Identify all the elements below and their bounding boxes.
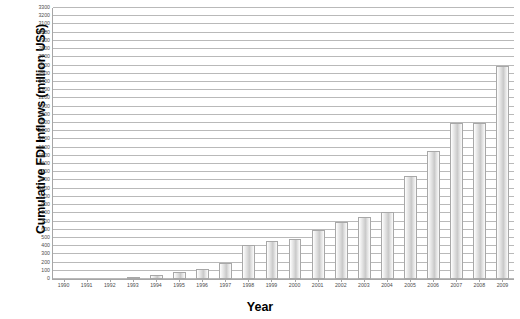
x-axis-tick-label: 2009 xyxy=(497,283,509,288)
y-axis-tick-label: 1400 xyxy=(38,161,50,166)
bar xyxy=(450,123,463,279)
bar-slot xyxy=(376,8,399,279)
bar-slot xyxy=(122,8,145,279)
bar xyxy=(427,151,440,279)
x-axis-tick-label: 2008 xyxy=(474,283,486,288)
bar xyxy=(219,263,232,279)
y-axis-tick-label: 3300 xyxy=(38,5,50,10)
x-axis-tick-label: 2005 xyxy=(404,283,416,288)
y-axis-tick-label: 1300 xyxy=(38,170,50,175)
y-axis-tick-label: 2800 xyxy=(38,46,50,51)
y-axis-tick-label: 1900 xyxy=(38,120,50,125)
bar xyxy=(496,66,509,280)
bar-slot xyxy=(284,8,307,279)
y-axis-tick-label: 2900 xyxy=(38,38,50,43)
bar-slot xyxy=(53,8,76,279)
x-axis-tick-label: 2000 xyxy=(289,283,301,288)
bar xyxy=(242,245,255,279)
bar-slot xyxy=(353,8,376,279)
y-axis-tick-label: 2500 xyxy=(38,71,50,76)
y-axis-tick-label: 1000 xyxy=(38,194,50,199)
x-axis-tick-label: 1993 xyxy=(127,283,139,288)
bar-slot xyxy=(145,8,168,279)
y-axis-tick-label: 800 xyxy=(41,211,50,216)
y-axis-tick-label: 700 xyxy=(41,219,50,224)
bar-slot xyxy=(445,8,468,279)
y-axis-tick-label: 1700 xyxy=(38,137,50,142)
y-axis-tick-label: 2600 xyxy=(38,63,50,68)
bar-slot xyxy=(491,8,514,279)
bar xyxy=(335,222,348,279)
bar xyxy=(381,212,394,279)
y-axis-tick-label: 2000 xyxy=(38,112,50,117)
bar xyxy=(266,241,279,279)
bar-slot xyxy=(330,8,353,279)
y-axis-tick-label: 3000 xyxy=(38,30,50,35)
bar xyxy=(312,230,325,279)
y-axis-tick-label: 200 xyxy=(41,260,50,265)
y-axis-tick-label: 600 xyxy=(41,227,50,232)
bar xyxy=(404,176,417,279)
x-axis-tick-labels: 1990199119921993199419951996199719981999… xyxy=(52,283,514,297)
y-axis-tick-label: 1500 xyxy=(38,153,50,158)
bar-slot xyxy=(260,8,283,279)
x-axis-tick-label: 2007 xyxy=(450,283,462,288)
bar xyxy=(173,272,186,279)
bar-slot xyxy=(76,8,99,279)
y-axis-tick-label: 300 xyxy=(41,252,50,257)
x-axis-tick-label: 1996 xyxy=(196,283,208,288)
bar-slot xyxy=(168,8,191,279)
y-axis-tick-label: 2300 xyxy=(38,88,50,93)
x-axis-tick-label: 2001 xyxy=(312,283,324,288)
x-axis-title: Year xyxy=(0,300,520,314)
y-axis-tick-label: 900 xyxy=(41,202,50,207)
y-axis-tick-label: 100 xyxy=(41,268,50,273)
x-axis-tick-label: 1991 xyxy=(81,283,93,288)
y-axis-tick-label: 400 xyxy=(41,244,50,249)
bar xyxy=(196,269,209,279)
x-axis-tick-label: 1994 xyxy=(150,283,162,288)
bar xyxy=(289,239,302,279)
y-axis-tick-label: 1600 xyxy=(38,145,50,150)
bar-slot xyxy=(307,8,330,279)
bar xyxy=(358,217,371,279)
bar-slot xyxy=(237,8,260,279)
x-axis-tick-label: 2003 xyxy=(358,283,370,288)
bar xyxy=(473,123,486,279)
x-axis-tick-label: 2004 xyxy=(381,283,393,288)
x-axis-tick-label: 1997 xyxy=(219,283,231,288)
x-axis-tick-label: 1998 xyxy=(243,283,255,288)
x-axis-tick-label: 1992 xyxy=(104,283,116,288)
bar-slot xyxy=(214,8,237,279)
bar-slot xyxy=(191,8,214,279)
bars-series xyxy=(53,8,514,279)
y-axis-tick-label: 2400 xyxy=(38,79,50,84)
bar-slot xyxy=(399,8,422,279)
bar-slot xyxy=(468,8,491,279)
y-axis-tick-label: 1200 xyxy=(38,178,50,183)
y-axis-tick-label: 1800 xyxy=(38,129,50,134)
x-axis-tick-label: 2002 xyxy=(335,283,347,288)
x-axis-tick-label: 2006 xyxy=(427,283,439,288)
y-axis-tick-label: 3100 xyxy=(38,22,50,27)
bar-slot xyxy=(422,8,445,279)
y-axis-tick-label: 2100 xyxy=(38,104,50,109)
chart-container: Cumulative FDI Inflows (million US$) 010… xyxy=(0,0,520,319)
y-axis-tick-label: 500 xyxy=(41,235,50,240)
plot-area: 0100200300400500600700800900100011001200… xyxy=(52,8,514,280)
y-axis-tick-label: 0 xyxy=(47,276,50,281)
y-axis-tick-label: 2700 xyxy=(38,55,50,60)
x-axis-tick-label: 1999 xyxy=(266,283,278,288)
x-axis-tick-label: 1990 xyxy=(58,283,70,288)
y-axis-tick-label: 2200 xyxy=(38,96,50,101)
x-axis-tick-label: 1995 xyxy=(173,283,185,288)
y-axis-tick-label: 3200 xyxy=(38,14,50,19)
y-axis-tick-label: 1100 xyxy=(39,186,50,191)
bar-slot xyxy=(99,8,122,279)
